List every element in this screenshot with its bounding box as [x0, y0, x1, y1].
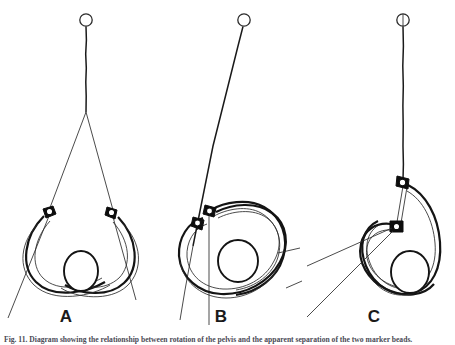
bead-hole-b-lower [195, 220, 201, 226]
bead-hole-c-lower [393, 223, 399, 229]
bead-hole-a-right [108, 209, 114, 215]
suspension-pivot-circle-b [238, 14, 250, 26]
figure-container: A [0, 0, 455, 345]
suspension-pivot-circle-a [80, 14, 92, 26]
panel-label-c: C [368, 307, 380, 326]
bead-hole-b-upper [207, 208, 213, 214]
plumb-line-a [86, 27, 87, 113]
bead-hole-a-left [46, 208, 52, 214]
panel-label-a: A [60, 307, 72, 326]
caption-text: Fig. 11. Diagram showing the relationshi… [4, 335, 412, 344]
figure-svg: A [0, 0, 455, 345]
bead-hole-c-upper [399, 179, 405, 185]
sacral-body-b [218, 240, 258, 282]
figure-caption: Fig. 11. Diagram showing the relationshi… [4, 335, 412, 344]
panel-label-b: B [215, 307, 227, 326]
sacral-body-c [391, 251, 429, 293]
marker-bead-c-lower [390, 221, 403, 232]
sacral-body-a [64, 251, 98, 291]
plumb-line-c [403, 27, 404, 181]
